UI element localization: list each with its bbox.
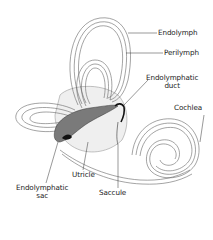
label-endolymphatic-duct-line2: duct — [146, 82, 198, 90]
label-perilymph: Perilymph — [164, 49, 199, 57]
label-endolymphatic-sac-line2: sac — [16, 192, 68, 200]
label-cochlea: Cochlea — [174, 104, 202, 112]
label-utricle: Utricle — [72, 171, 95, 179]
label-endolymphatic-sac: Endolymphatic sac — [16, 184, 68, 200]
label-endolymphatic-duct: Endolymphatic duct — [146, 74, 198, 90]
label-saccule: Saccule — [99, 189, 126, 197]
label-endolymph: Endolymph — [158, 29, 198, 37]
